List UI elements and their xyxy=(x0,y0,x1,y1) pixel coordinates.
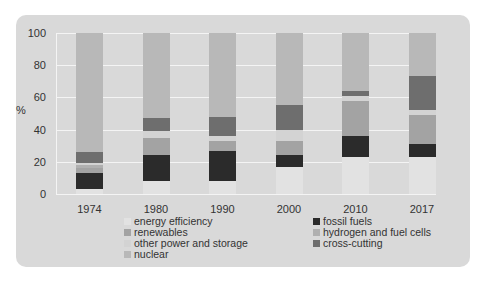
bar-segment-nuclear xyxy=(276,33,303,105)
x-tick-label: 1990 xyxy=(203,203,243,215)
bar-segment-cross-cutting xyxy=(76,152,103,163)
bar-segment-other-power-and-storage xyxy=(209,136,236,141)
legend-label: cross-cutting xyxy=(323,238,383,249)
bar-segment-fossil-fuels xyxy=(342,136,369,157)
gridline xyxy=(56,97,436,98)
y-tick-label: 20 xyxy=(16,156,46,168)
bar-segment-renewables xyxy=(276,141,303,155)
bar-segment-hydrogen-and-fuel-cells xyxy=(76,165,103,168)
legend-swatch-icon xyxy=(124,240,131,247)
bar-1974 xyxy=(76,33,103,194)
bar-segment-energy-efficiency xyxy=(76,189,103,194)
gridline xyxy=(56,162,436,163)
bar-segment-cross-cutting xyxy=(209,117,236,136)
bar-segment-fossil-fuels xyxy=(209,151,236,182)
x-tick-label: 1980 xyxy=(136,203,176,215)
bar-segment-renewables xyxy=(209,141,236,151)
bar-segment-other-power-and-storage xyxy=(143,131,170,137)
x-tick-label: 2000 xyxy=(269,203,309,215)
legend-swatch-icon xyxy=(313,218,320,225)
bar-segment-energy-efficiency xyxy=(409,157,436,194)
legend-swatch-icon xyxy=(124,229,131,236)
bar-segment-energy-efficiency xyxy=(143,181,170,194)
bar-segment-cross-cutting xyxy=(143,118,170,131)
bar-segment-fossil-fuels xyxy=(276,155,303,166)
bar-2000 xyxy=(276,33,303,194)
x-tick-label: 1974 xyxy=(70,203,110,215)
bar-segment-other-power-and-storage xyxy=(409,110,436,115)
legend-right: fossil fuelshydrogen and fuel cellscross… xyxy=(313,216,431,249)
y-tick-label: 40 xyxy=(16,124,46,136)
bar-segment-fossil-fuels xyxy=(76,173,103,189)
bar-segment-nuclear xyxy=(409,33,436,76)
bar-segment-nuclear xyxy=(76,33,103,152)
x-tick-label: 2017 xyxy=(402,203,442,215)
legend-label: nuclear xyxy=(134,249,168,260)
legend-item: nuclear xyxy=(124,249,248,260)
bar-segment-fossil-fuels xyxy=(143,155,170,181)
bar-segment-renewables xyxy=(76,168,103,173)
x-tick-label: 2010 xyxy=(336,203,376,215)
gridline xyxy=(56,33,436,34)
y-tick-label: 0 xyxy=(16,188,46,200)
legend-item: cross-cutting xyxy=(313,238,431,249)
gridline xyxy=(56,194,436,195)
gridline xyxy=(56,65,436,66)
bar-segment-energy-efficiency xyxy=(342,157,369,194)
y-tick-label: 80 xyxy=(16,59,46,71)
bar-segment-nuclear xyxy=(342,33,369,91)
bar-segment-fossil-fuels xyxy=(409,144,436,157)
bar-segment-cross-cutting xyxy=(342,91,369,96)
legend-swatch-icon xyxy=(313,240,320,247)
bar-segment-nuclear xyxy=(209,33,236,117)
bar-segment-energy-efficiency xyxy=(209,181,236,194)
bar-segment-other-power-and-storage xyxy=(76,163,103,165)
y-tick-label: 100 xyxy=(16,27,46,39)
legend-swatch-icon xyxy=(124,218,131,225)
bar-2017 xyxy=(409,33,436,194)
plot-area: 020406080100197419801990200020102017 xyxy=(56,33,436,194)
y-axis-label: % xyxy=(16,104,26,116)
legend-swatch-icon xyxy=(124,251,131,258)
bar-segment-renewables xyxy=(342,101,369,136)
bar-segment-cross-cutting xyxy=(409,76,436,110)
bar-segment-other-power-and-storage xyxy=(276,130,303,141)
bar-segment-energy-efficiency xyxy=(276,167,303,194)
y-axis-line xyxy=(56,33,57,194)
gridline xyxy=(56,130,436,131)
bar-segment-renewables xyxy=(143,138,170,156)
bar-1980 xyxy=(143,33,170,194)
legend-left: energy efficiencyrenewablesother power a… xyxy=(124,216,248,260)
legend-swatch-icon xyxy=(313,229,320,236)
bar-segment-renewables xyxy=(409,115,436,144)
bar-2010 xyxy=(342,33,369,194)
bar-segment-nuclear xyxy=(143,33,170,118)
y-tick-label: 60 xyxy=(16,91,46,103)
bar-1990 xyxy=(209,33,236,194)
bar-segment-other-power-and-storage xyxy=(342,96,369,101)
bar-segment-cross-cutting xyxy=(276,105,303,129)
